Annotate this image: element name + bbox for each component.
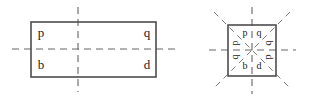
right-letter-bottom-right: d (257, 60, 262, 71)
left-letter-bottom-left: b (38, 57, 45, 72)
left-rectangle-figure: p q b d (12, 7, 175, 92)
right-square-figure: p q b d p q b d (209, 7, 296, 94)
figure-canvas: p q b d p q b d p q b d (0, 0, 312, 99)
right-letter-right-upper: b (264, 41, 275, 46)
right-letter-top-right: q (257, 27, 262, 38)
left-letter-bottom-right: d (144, 57, 151, 72)
left-letter-top-right: q (144, 25, 151, 40)
right-letter-left-upper: p (229, 41, 240, 46)
right-letter-left-lower: q (229, 55, 240, 60)
right-letter-top-left: p (243, 27, 248, 38)
right-letter-right-lower: d (264, 55, 275, 60)
right-letter-bottom-left: b (243, 60, 248, 71)
symmetry-figure-svg: p q b d p q b d p q b d (0, 0, 312, 99)
left-letter-top-left: p (38, 25, 45, 40)
